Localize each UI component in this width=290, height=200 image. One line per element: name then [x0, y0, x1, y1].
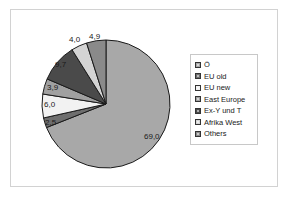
- legend-swatch-icon: [195, 131, 201, 137]
- legend-item-eu-old[interactable]: EU old: [195, 71, 254, 83]
- data-label-eu-new: 6,0: [44, 101, 55, 109]
- legend-label: Afrika West: [204, 119, 242, 127]
- legend-label: East Europe: [204, 96, 245, 104]
- data-label-oe: 69,0: [144, 133, 160, 141]
- data-label-east-europe: 3,9: [47, 84, 58, 92]
- legend-item-ex-y-und-t[interactable]: Ex-Y und T: [195, 105, 254, 117]
- legend-swatch-icon: [195, 96, 201, 102]
- legend-swatch-icon: [195, 108, 201, 114]
- legend-item-eu-new[interactable]: EU new: [195, 82, 254, 94]
- legend-swatch-icon: [195, 62, 201, 68]
- pie-chart-figure: 4,0 4,9 9,7 3,9 6,0 2,5 69,0 Ö EU old EU…: [0, 0, 290, 200]
- legend-item-oe[interactable]: Ö: [195, 59, 254, 71]
- legend-label: EU old: [204, 73, 227, 81]
- legend-item-others[interactable]: Others: [195, 128, 254, 140]
- legend-swatch-icon: [195, 73, 201, 79]
- data-label-afrika-west: 4,0: [69, 36, 80, 44]
- legend-label: Ö: [204, 61, 210, 69]
- legend-swatch-icon: [195, 85, 201, 91]
- legend-label: EU new: [204, 84, 230, 92]
- pie-svg: [40, 38, 172, 170]
- legend-swatch-icon: [195, 119, 201, 125]
- legend-label: Ex-Y und T: [204, 107, 241, 115]
- data-label-others: 4,9: [89, 33, 100, 41]
- legend-label: Others: [204, 130, 227, 138]
- legend-item-east-europe[interactable]: East Europe: [195, 94, 254, 106]
- legend: Ö EU old EU new East Europe Ex-Y und T A…: [190, 54, 258, 145]
- data-label-eu-old: 2,5: [45, 119, 56, 127]
- data-label-ex-y-und-t: 9,7: [55, 61, 66, 69]
- legend-item-afrika-west[interactable]: Afrika West: [195, 117, 254, 129]
